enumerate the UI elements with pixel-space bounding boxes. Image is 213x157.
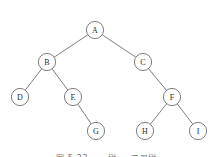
tree-edge-b-d (25, 69, 42, 90)
tree-node-label-h: H (142, 127, 148, 136)
tree-edge-f-i (177, 104, 193, 124)
figure-caption: 图 5-23 树 … 二叉树 (0, 147, 213, 157)
figure-caption-text: 图 5-23 树 … 二叉树 (56, 154, 156, 157)
tree-node-label-d: D (17, 93, 23, 102)
tree-node-c: C (134, 53, 151, 70)
tree-edge-a-b (54, 35, 88, 57)
tree-node-e: E (64, 88, 81, 105)
tree-node-d: D (11, 88, 28, 105)
caption-right-text: 树 … 二叉树 (108, 154, 157, 157)
tree-node-label-g: G (93, 127, 99, 136)
figure-canvas: ABCDEFGHI 图 5-23 树 … 二叉树 (0, 0, 213, 157)
tree-node-h: H (136, 122, 153, 139)
tree-node-label-b: B (44, 58, 49, 67)
tree-node-label-a: A (92, 26, 98, 35)
tree-node-b: B (38, 53, 55, 70)
caption-left-text: 图 5-23 (56, 154, 88, 157)
tree-edges (25, 35, 193, 125)
tree-node-g: G (87, 122, 104, 139)
tree-node-label-e: E (71, 93, 76, 102)
tree-node-f: F (163, 88, 180, 105)
binary-tree-diagram: ABCDEFGHI (0, 0, 213, 157)
tree-edge-f-h (150, 104, 166, 125)
tree-edge-e-g (78, 104, 91, 124)
tree-edge-c-f (148, 69, 166, 91)
tree-node-label-f: F (170, 93, 175, 102)
tree-edge-b-e (52, 69, 68, 90)
tree-node-i: I (189, 122, 206, 139)
tree-edge-a-c (102, 35, 136, 57)
tree-node-label-i: I (197, 127, 200, 136)
tree-node-a: A (86, 21, 103, 38)
tree-node-label-c: C (140, 58, 145, 67)
